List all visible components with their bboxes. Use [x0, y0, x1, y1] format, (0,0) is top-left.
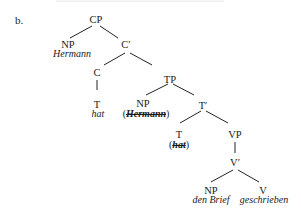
paren-close: ): [186, 139, 189, 150]
word-hat: hat: [92, 109, 105, 119]
edge-tbar-vp: [206, 111, 228, 123]
node-t-bar: T′: [199, 101, 208, 111]
node-tp: TP: [164, 75, 176, 85]
node-vp: VP: [228, 130, 241, 140]
node-v-bar: V′: [230, 158, 240, 168]
edge-vbar-v: [238, 170, 259, 182]
word-den-brief: den Brief: [193, 195, 230, 205]
edge-tp-np: [146, 84, 168, 95]
node-c-bar: C′: [121, 40, 130, 50]
node-c: C: [93, 68, 100, 78]
node-cp: CP: [90, 15, 103, 25]
edge-cbar-c: [104, 53, 125, 65]
edge-tp-tbar: [173, 84, 194, 95]
edge-vbar-np: [211, 170, 233, 182]
paren-close: ): [166, 108, 169, 119]
word-hermann: Hermann: [53, 49, 91, 59]
edge-cp-np: [70, 26, 92, 38]
struck-word-hat: hat: [172, 139, 185, 150]
trace-hat: (hat): [169, 140, 189, 150]
edge-tbar-t: [180, 111, 201, 123]
edge-cp-cbar: [100, 26, 118, 38]
trace-hermann: (Hermann): [123, 109, 170, 119]
word-geschrieben: geschrieben: [240, 195, 288, 205]
struck-word-hermann: Hermann: [126, 108, 166, 119]
edge-cbar-tp: [130, 53, 152, 65]
